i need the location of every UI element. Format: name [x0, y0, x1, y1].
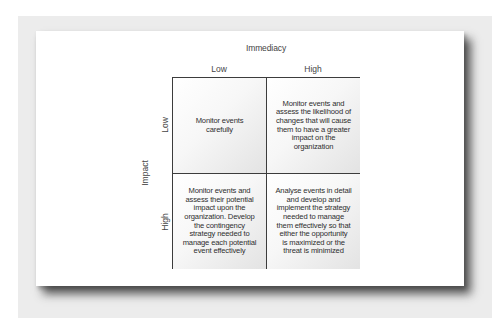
- row-label-low: Low: [160, 105, 172, 145]
- column-label-low: Low: [172, 64, 266, 74]
- cell-high-impact-low-immediacy: Monitor events and assess their potentia…: [173, 174, 267, 269]
- matrix-grid: Monitor events carefully Monitor events …: [172, 77, 360, 269]
- column-label-high: High: [266, 64, 360, 74]
- cell-text: Analyse events in detail and develop and…: [275, 187, 351, 256]
- row-label-high: High: [160, 202, 172, 242]
- cell-text: Monitor events and assess the likelihood…: [276, 100, 351, 152]
- cell-text: Monitor events carefully: [196, 117, 244, 134]
- cell-high-impact-high-immediacy: Analyse events in detail and develop and…: [267, 174, 360, 269]
- cell-text: Monitor events and assess their potentia…: [183, 187, 257, 256]
- cell-low-impact-high-immediacy: Monitor events and assess the likelihood…: [267, 78, 360, 174]
- x-axis-title: Immediacy: [196, 43, 336, 53]
- cell-low-impact-low-immediacy: Monitor events carefully: [173, 78, 267, 174]
- y-axis-title: Impact: [140, 143, 152, 203]
